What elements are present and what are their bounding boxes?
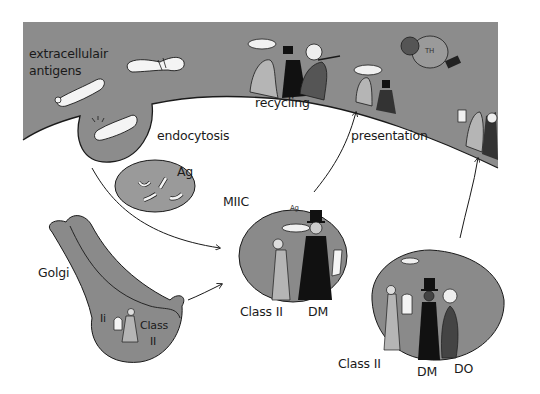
label-extracellular: extracellulair xyxy=(29,48,108,61)
label-antigens: antigens xyxy=(29,65,81,78)
arrow-miic-to-surface xyxy=(314,112,356,192)
label-presentation: presentation xyxy=(351,130,428,143)
label-miic-ag: Ag xyxy=(290,205,299,212)
peptide-icon xyxy=(401,258,419,264)
label-late-dm: DM xyxy=(417,366,437,379)
label-endocytosis: endocytosis xyxy=(157,130,229,143)
label-recycling: recycling xyxy=(255,97,310,110)
label-miic-dm: DM xyxy=(308,306,328,319)
label-th-cell: TH xyxy=(425,48,434,55)
label-late-do: DO xyxy=(454,363,473,376)
label-miic-class-ii: Class II xyxy=(240,306,283,319)
label-golgi-ii: II xyxy=(150,336,156,347)
label-golgi-class: Class xyxy=(140,320,168,331)
label-golgi: Golgi xyxy=(38,267,69,280)
arrow-golgi-to-miic xyxy=(188,284,222,300)
label-late-class-ii: Class II xyxy=(338,358,381,371)
label-ii: Ii xyxy=(100,313,106,324)
label-miic: MIIC xyxy=(223,196,249,209)
late-characters xyxy=(384,278,458,360)
arrow-late-to-surface xyxy=(460,158,478,238)
label-ag-endosome: Ag xyxy=(177,166,193,179)
